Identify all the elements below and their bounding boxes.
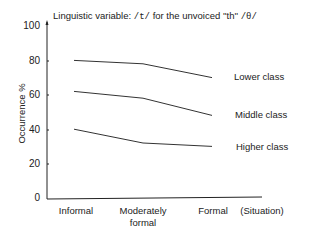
legend-higher-class: Higher class — [236, 141, 288, 152]
legend-lower-class: Lower class — [234, 71, 284, 82]
line-lower-class — [74, 60, 212, 77]
y-axis-label: Occurrence % — [16, 79, 27, 149]
y-tick-0: 0 — [16, 192, 40, 203]
x-tick-informal: Informal — [41, 205, 111, 217]
y-axis-arrow-icon — [46, 20, 49, 25]
y-tick-20: 20 — [16, 158, 40, 169]
legend-middle-class: Middle class — [235, 109, 287, 120]
y-tick-100: 100 — [16, 20, 40, 31]
x-axis — [47, 197, 262, 199]
line-higher-class — [74, 129, 212, 146]
x-tick-moderately-formal: formal — [108, 217, 178, 229]
series-lines — [74, 60, 212, 146]
line-middle-class — [74, 91, 212, 115]
x-axis-label: (Situation) — [227, 205, 297, 217]
x-tick-moderately: Moderately — [108, 205, 178, 217]
y-tick-80: 80 — [16, 55, 40, 66]
